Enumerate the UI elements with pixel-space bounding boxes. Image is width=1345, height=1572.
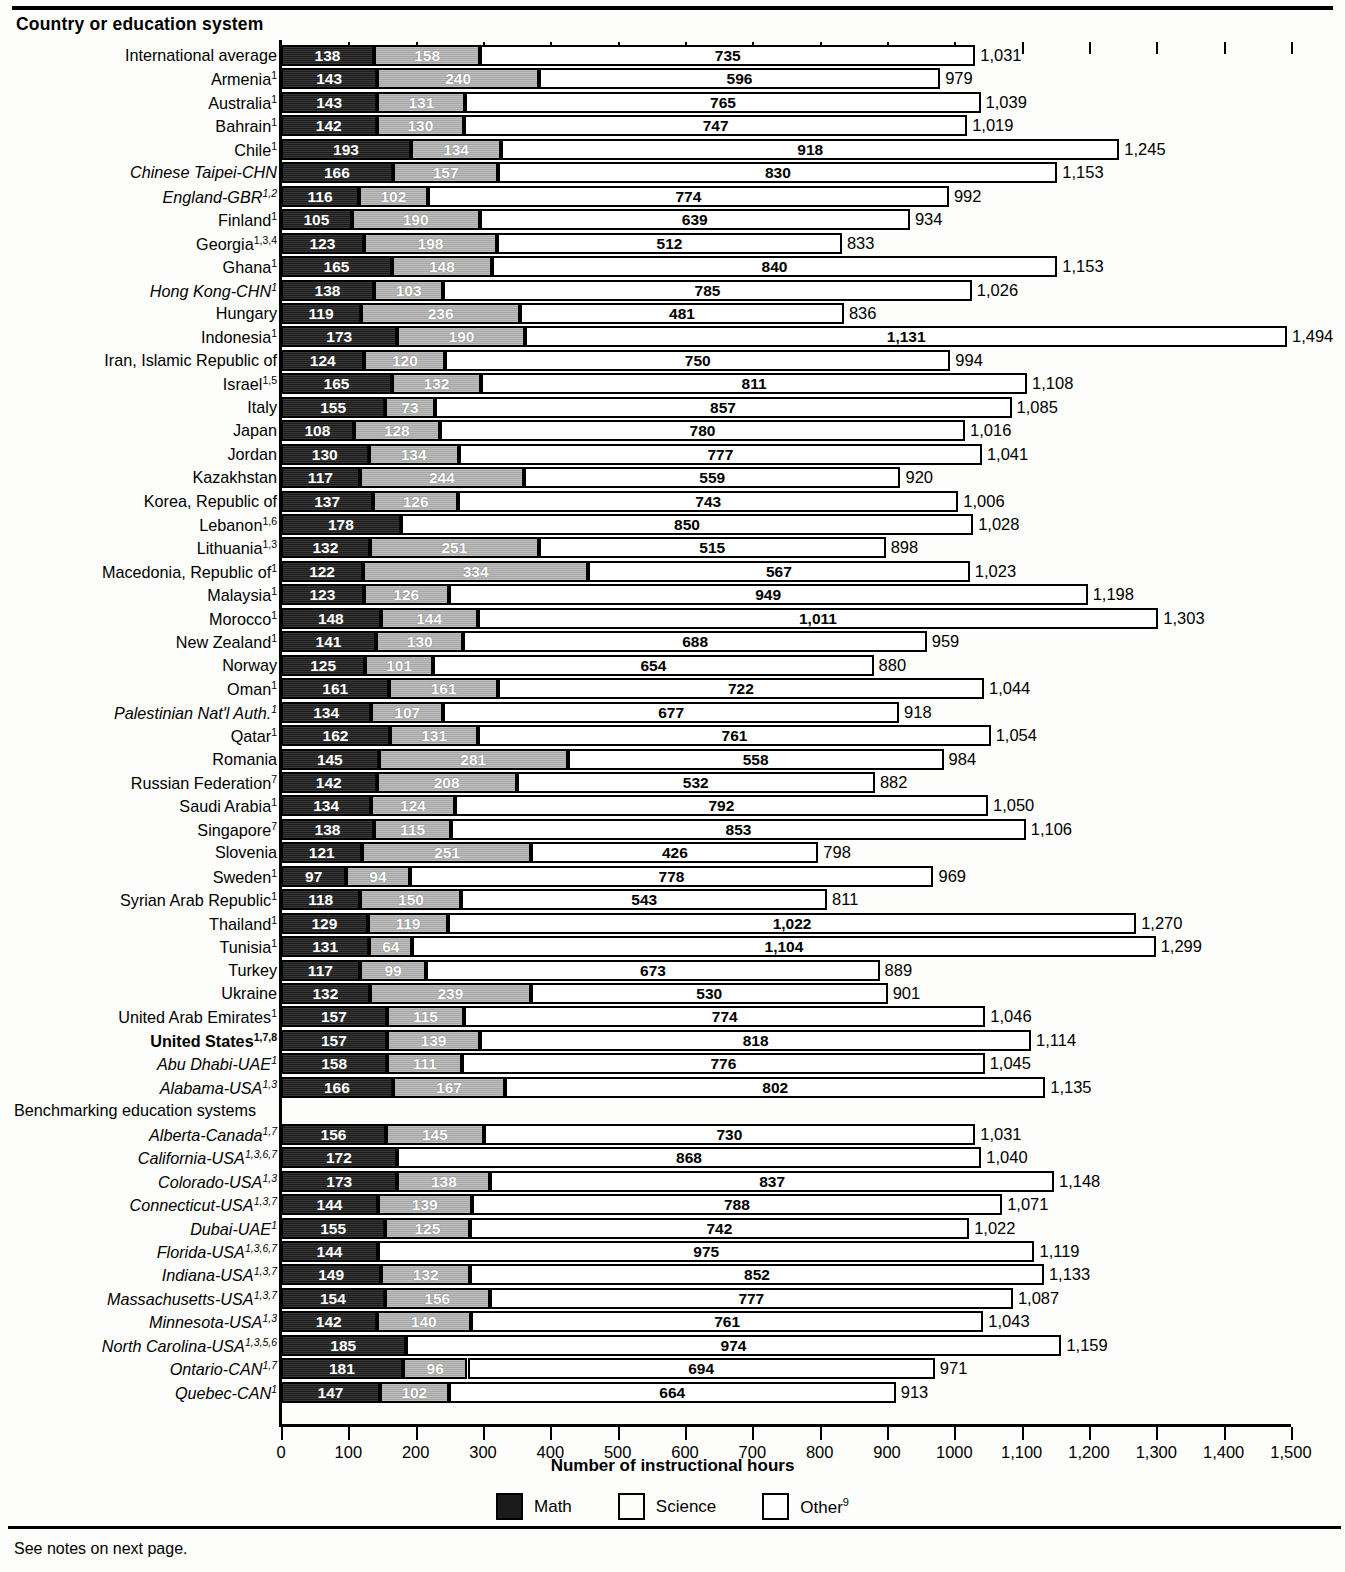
bar-row: 1788501,028	[281, 514, 1291, 535]
x-tick	[618, 1427, 620, 1440]
row-label-korea-republic-of: Korea, Republic of	[5, 492, 277, 511]
segment-value-label: 244	[429, 468, 455, 487]
bar-total-label: 1,046	[990, 1007, 1031, 1026]
x-tick	[954, 1427, 956, 1440]
bar-total-label: 1,245	[1124, 140, 1165, 159]
bar-row: 147102664913	[281, 1382, 1291, 1403]
bar-row: 123198512833	[281, 233, 1291, 254]
x-tick	[348, 1427, 350, 1440]
bar-total-label: 959	[932, 632, 960, 651]
bar-total-label: 1,494	[1292, 327, 1333, 346]
row-label-indiana-usa: Indiana-USA1,3,7	[5, 1265, 277, 1285]
row-label-iran-islamic-republic-of: Iran, Islamic Republic of	[5, 351, 277, 370]
bar-row: 117244559920	[281, 467, 1291, 488]
segment-value-label: 126	[403, 492, 429, 511]
row-label-ontario-can: Ontario-CAN1,7	[5, 1359, 277, 1379]
segment-value-label: 99	[384, 961, 401, 980]
bar-total-label: 1,006	[963, 492, 1004, 511]
x-tick	[685, 1427, 687, 1440]
x-tick	[1089, 1427, 1091, 1440]
segment-value-label: 139	[412, 1195, 438, 1214]
segment-value-label: 785	[695, 281, 721, 300]
segment-value-label: 138	[431, 1172, 457, 1191]
segment-value-label: 161	[431, 679, 457, 698]
segment-value-label: 148	[429, 257, 455, 276]
segment-value-label: 157	[433, 163, 459, 182]
segment-value-label: 132	[413, 1265, 439, 1284]
bar-total-label: 1,041	[987, 445, 1028, 464]
row-label-slovenia: Slovenia	[5, 843, 277, 862]
row-label-england-gbr: England-GBR1,2	[5, 187, 277, 207]
segment-value-label: 142	[316, 1312, 342, 1331]
bar-row: 143240596979	[281, 68, 1291, 89]
segment-value-label: 776	[710, 1054, 736, 1073]
segment-value-label: 126	[393, 585, 419, 604]
segment-value-label: 334	[463, 562, 489, 581]
segment-value-label: 73	[401, 398, 418, 417]
bar-total-label: 1,071	[1007, 1195, 1048, 1214]
bar-row: 1381587351,031	[281, 45, 1291, 66]
segment-value-label: 115	[413, 1007, 438, 1026]
bar-row: 1381158531,106	[281, 819, 1291, 840]
segment-value-label: 105	[303, 210, 329, 229]
segment-value-label: 251	[441, 538, 467, 557]
row-label-chile: Chile1	[5, 140, 277, 160]
segment-value-label: 743	[695, 492, 721, 511]
row-label-quebec-can: Quebec-CAN1	[5, 1383, 277, 1403]
segment-value-label: 157	[321, 1007, 347, 1026]
segment-value-label: 149	[318, 1265, 344, 1284]
segment-value-label: 567	[766, 562, 792, 581]
row-label-lithuania: Lithuania1,3	[5, 538, 277, 558]
segment-value-label: 1,131	[887, 327, 926, 346]
segment-value-label: 1,104	[765, 937, 804, 956]
segment-value-label: 129	[311, 914, 337, 933]
segment-value-label: 137	[314, 492, 340, 511]
segment-value-label: 94	[369, 867, 386, 886]
bar-total-label: 994	[955, 351, 983, 370]
segment-value-label: 774	[675, 187, 701, 206]
segment-value-label: 240	[445, 69, 471, 88]
bar-row: 1081287801,016	[281, 420, 1291, 441]
bar-total-label: 971	[940, 1359, 968, 1378]
segment-value-label: 185	[330, 1336, 356, 1355]
bar-row: 1541567771,087	[281, 1288, 1291, 1309]
bar-row: 131641,1041,299	[281, 936, 1291, 957]
bar-total-label: 798	[823, 843, 851, 862]
segment-value-label: 162	[323, 726, 349, 745]
bar-row: 132251515898	[281, 537, 1291, 558]
bar-total-label: 1,303	[1163, 609, 1204, 628]
bar-row: 105190639934	[281, 209, 1291, 230]
bar-total-label: 901	[893, 984, 921, 1003]
segment-value-label: 128	[384, 421, 410, 440]
bar-total-label: 1,270	[1141, 914, 1182, 933]
segment-value-label: 138	[315, 281, 341, 300]
group-heading-benchmarking: Benchmarking education systems	[14, 1101, 286, 1120]
row-label-abu-dhabi-uae: Abu Dhabi-UAE1	[5, 1054, 277, 1074]
bar-total-label: 969	[938, 867, 966, 886]
row-label-international-average: International average	[5, 46, 277, 65]
row-label-tunisia: Tunisia1	[5, 937, 277, 957]
bar-row: 1621317611,054	[281, 725, 1291, 746]
bar-total-label: 833	[847, 234, 875, 253]
segment-value-label: 673	[640, 961, 666, 980]
row-label-north-carolina-usa: North Carolina-USA1,3,5,6	[5, 1336, 277, 1356]
segment-value-label: 857	[710, 398, 736, 417]
segment-value-label: 111	[413, 1054, 437, 1073]
legend-swatch-other	[762, 1493, 789, 1520]
bar-row: 145281558984	[281, 749, 1291, 770]
bar-row: 1931349181,245	[281, 139, 1291, 160]
bar-row: 1661578301,153	[281, 162, 1291, 183]
bar-total-label: 1,043	[988, 1312, 1029, 1331]
segment-value-label: 132	[424, 374, 450, 393]
segment-value-label: 512	[657, 234, 683, 253]
segment-value-label: 132	[313, 538, 339, 557]
segment-value-label: 811	[742, 374, 767, 393]
segment-value-label: 138	[315, 820, 341, 839]
segment-value-label: 208	[434, 773, 460, 792]
segment-value-label: 125	[310, 656, 336, 675]
bar-total-label: 1,119	[1039, 1242, 1079, 1261]
segment-value-label: 107	[394, 703, 420, 722]
chart-plot-area: 010020030040050060070080090010001,1001,2…	[281, 40, 1291, 1425]
segment-value-label: 158	[414, 46, 440, 65]
bar-total-label: 836	[849, 304, 877, 323]
